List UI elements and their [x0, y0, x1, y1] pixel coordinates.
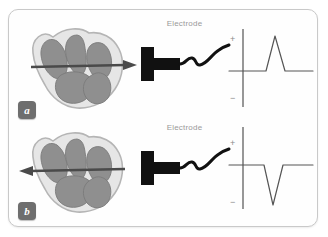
axis-minus-label-a: −	[230, 94, 235, 103]
ecg-electrode-figure: a	[0, 0, 328, 237]
electrode-group-b: Electrode	[137, 119, 232, 219]
electrode-group-a: Electrode	[137, 15, 232, 115]
electrode-label-b: Electrode	[137, 123, 232, 132]
figure-frame: a	[8, 9, 318, 227]
ecg-graph-b: + −	[221, 119, 317, 219]
axis-plus-label-b: +	[230, 139, 235, 148]
axis-plus-label-a: +	[230, 35, 235, 44]
ecg-trace-b	[229, 165, 313, 205]
axis-minus-label-b: −	[230, 198, 235, 207]
ecg-graph-a: + −	[221, 15, 317, 115]
heart-diagram-a	[17, 15, 141, 115]
panel-b: b	[9, 117, 319, 221]
surface-electrode-b	[141, 151, 180, 185]
ecg-trace-a	[229, 36, 313, 71]
heart-diagram-b	[17, 119, 141, 219]
electrode-label-a: Electrode	[137, 19, 232, 28]
surface-electrode-a	[141, 47, 180, 81]
panel-a: a	[9, 13, 319, 117]
